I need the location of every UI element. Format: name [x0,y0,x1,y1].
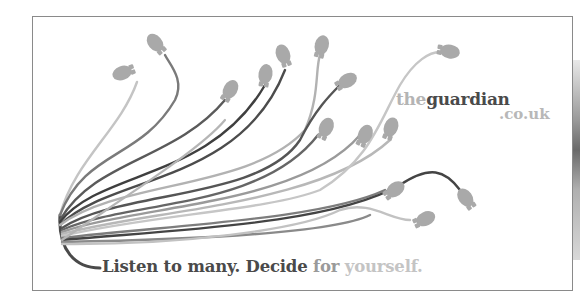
computer-mouse-icon [110,31,478,231]
guardian-logo[interactable]: theguardian [396,89,510,109]
slogan: Listen to many. Decide for yourself. [102,257,423,276]
logo-domain: .co.uk [499,105,550,123]
slogan-part-3: yourself. [345,257,423,276]
slogan-part-2: for [313,257,345,276]
slogan-part-1: Listen to many. Decide [102,257,313,276]
logo-name: guardian [426,89,510,109]
logo-prefix: the [396,89,426,109]
